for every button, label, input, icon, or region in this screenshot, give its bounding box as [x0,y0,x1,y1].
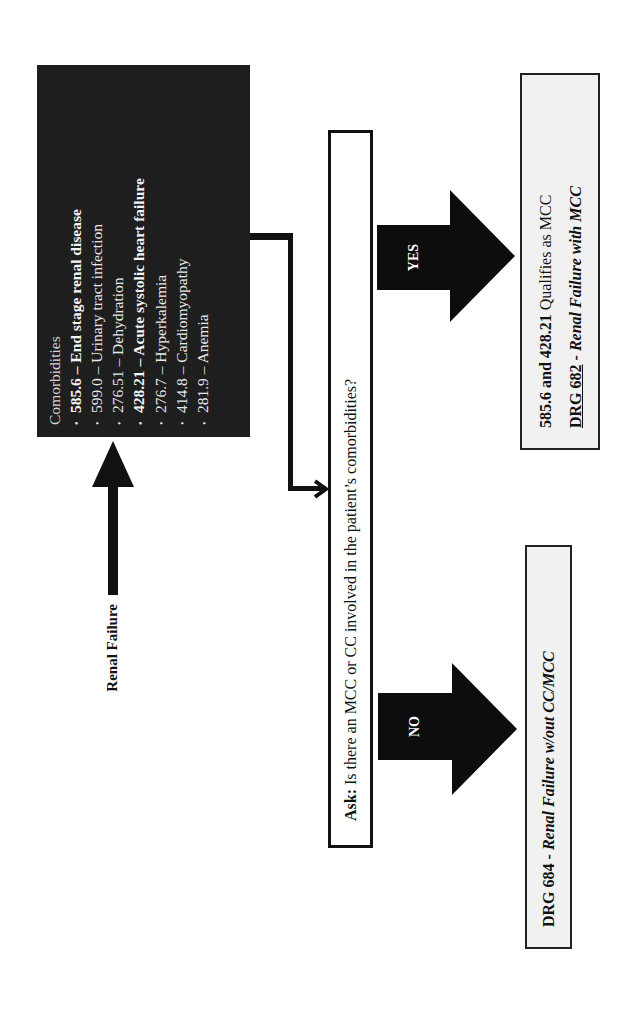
bullet-icon: • [173,413,193,425]
connector-line [288,233,293,490]
comorbidity-item: •414.8 – Cardiomyopathy [172,75,193,425]
no-label: NO [378,693,452,760]
bullet-icon: • [195,413,215,425]
drg-682-line: DRG 682 - Renal Failure with MCC [561,75,591,428]
no-arrow-label-wrap: NO [378,693,452,760]
start-label: Renal Failure [103,604,121,732]
bullet-icon: • [152,413,172,425]
comorbidity-item: •276.7 – Hyperkalemia [151,75,172,425]
drg-684-line: DRG 684 - Renal Failure w/out CC/MCC [527,547,570,927]
bullet-icon: • [67,413,87,425]
start-arrow-shaft [108,485,118,595]
drg-682-code: DRG 682 [567,364,584,428]
comorbidity-item: •599.0 – Urinary tract infection [87,75,108,425]
bullet-icon: • [88,413,108,425]
drg-682-result-box: 585.6 and 428.21 Qualifies as MCC DRG 68… [520,73,600,450]
connector-line [250,233,292,240]
comorbidity-item: •428.21 – Acute systolic heart failure [129,75,150,425]
drg-684-code: DRG 684 [540,863,557,927]
connector-arrowhead-icon [314,479,328,499]
drg-684-desc: Renal Failure w/out CC/MCC [540,651,557,850]
bullet-icon: • [131,413,151,425]
renal-failure-drg-flowchart: Renal Failure Comorbidities •585.6 – End… [0,0,617,1032]
yes-arrow-label-wrap: YES [377,225,450,290]
question-box: Ask: Is there an MCC or CC involved in t… [328,130,373,848]
yes-label: YES [377,225,450,290]
comorbidity-item: •281.9 – Anemia [193,75,214,425]
question-prefix: Ask: [342,789,359,821]
bullet-icon: • [110,413,130,425]
comorbidities-title: Comorbidities [45,75,65,425]
comorbidity-item: •276.51 – Dehydration [108,75,129,425]
mcc-qualifier-line: 585.6 and 428.21 Qualifies as MCC [531,75,561,428]
question-text: Is there an MCC or CC involved in the pa… [342,379,359,789]
drg-682-desc: Renal Failure with MCC [567,186,584,351]
comorbidities-box: Comorbidities •585.6 – End stage renal d… [37,65,250,437]
drg-684-result-box: DRG 684 - Renal Failure w/out CC/MCC [525,545,572,949]
comorbidity-item: •585.6 – End stage renal disease [66,75,87,425]
start-arrow-head-icon [92,441,134,487]
comorbidities-list: •585.6 – End stage renal disease •599.0 … [66,75,215,425]
